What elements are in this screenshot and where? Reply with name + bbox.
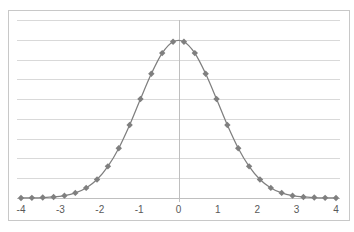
x-tick-label: 4 [333, 204, 339, 215]
data-point-marker [279, 190, 285, 196]
data-point-marker [224, 122, 230, 128]
data-point-marker [61, 192, 67, 198]
x-tick-label: 1 [215, 204, 221, 215]
data-point-marker [311, 194, 317, 200]
data-point-marker [202, 71, 208, 77]
data-point-marker [137, 96, 143, 102]
data-point-marker [148, 71, 154, 77]
data-point-marker [289, 192, 295, 198]
x-tick-label: -2 [95, 204, 104, 215]
data-point-marker [50, 194, 56, 200]
data-point-marker [268, 185, 274, 191]
x-tick-label: 3 [294, 204, 300, 215]
x-tick-label: -4 [17, 204, 26, 215]
data-point-marker [18, 195, 24, 201]
data-point-marker [333, 195, 339, 201]
data-point-marker [40, 194, 46, 200]
data-point-marker [235, 145, 241, 151]
data-point-marker [72, 190, 78, 196]
x-axis-tick-labels: -4-3-2-101234 [17, 204, 340, 215]
data-point-marker [29, 195, 35, 201]
data-point-marker [126, 122, 132, 128]
x-tick-label: 0 [176, 204, 182, 215]
data-point-marker [300, 194, 306, 200]
data-point-marker [116, 145, 122, 151]
x-tick-label: 2 [254, 204, 260, 215]
data-point-marker [322, 195, 328, 201]
x-tick-label: -1 [135, 204, 144, 215]
axes [17, 20, 340, 202]
data-point-marker [213, 96, 219, 102]
gridlines [17, 21, 340, 179]
data-point-marker [83, 185, 89, 191]
x-tick-label: -3 [56, 204, 65, 215]
plot-area: -4-3-2-101234 [0, 0, 354, 232]
